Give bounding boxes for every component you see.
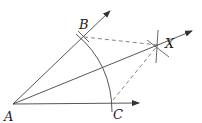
dashed-BX [84,37,158,45]
label-C: C [113,107,123,122]
arc-mark-X-1 [156,30,158,63]
ray-AC [13,103,139,104]
dashed-CX [113,45,158,100]
construction-figure: B X A C [0,0,202,123]
label-A: A [3,109,13,123]
diagram-canvas: B X A C [0,0,202,123]
ray-AB [13,11,110,104]
label-X: X [164,36,175,51]
label-B: B [78,17,89,32]
arc-centered-A [76,34,112,112]
